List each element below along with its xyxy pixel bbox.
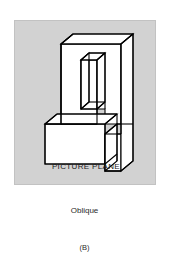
figure-root: PICTURE PLANE Oblique (B) — [0, 0, 169, 267]
front-face-lower-block — [45, 124, 105, 164]
projection-type-caption: Oblique — [0, 206, 169, 215]
figure-index-caption: (B) — [0, 243, 169, 252]
slot-inner-left-wall — [81, 53, 89, 109]
picture-plane-panel: PICTURE PLANE — [14, 20, 156, 185]
right-side-face-upper-slab — [121, 34, 133, 171]
picture-plane-label: PICTURE PLANE — [15, 162, 157, 171]
slot-inner-right-wall — [97, 53, 105, 109]
